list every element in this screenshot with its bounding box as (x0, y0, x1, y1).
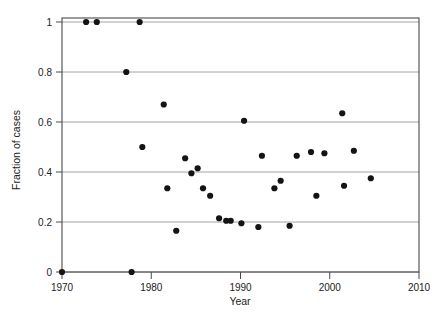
x-axis-title: Year (229, 295, 251, 307)
y-tick-label-0.6: 0.6 (38, 117, 52, 128)
data-point (123, 69, 129, 75)
y-tick-label-1: 1 (46, 17, 52, 28)
data-point (321, 150, 327, 156)
data-point (259, 153, 265, 159)
data-point (339, 110, 345, 116)
data-point (59, 269, 65, 275)
data-point (294, 153, 300, 159)
data-point (139, 144, 145, 150)
data-point (94, 19, 100, 25)
data-point (173, 228, 179, 234)
y-axis-tick-labels: 00.20.40.60.81 (38, 17, 52, 278)
y-axis-ticks (56, 22, 62, 272)
x-axis-tick-labels: 19701980199020002010 (51, 282, 431, 293)
y-tick-label-0.4: 0.4 (38, 167, 52, 178)
data-point (341, 183, 347, 189)
data-point (182, 155, 188, 161)
data-point (308, 149, 314, 155)
y-tick-label-0.2: 0.2 (38, 217, 52, 228)
data-point (271, 185, 277, 191)
data-point (207, 193, 213, 199)
x-tick-label-1980: 1980 (140, 282, 163, 293)
data-point (286, 223, 292, 229)
data-point (368, 175, 374, 181)
data-points (59, 19, 374, 275)
data-point (129, 269, 135, 275)
y-axis-title: Fraction of cases (10, 110, 22, 190)
data-point (195, 165, 201, 171)
x-tick-label-2000: 2000 (319, 282, 342, 293)
x-axis-ticks (62, 272, 419, 279)
data-point (278, 178, 284, 184)
data-point (313, 193, 319, 199)
data-point (200, 185, 206, 191)
y-tick-label-0.8: 0.8 (38, 67, 52, 78)
x-tick-label-2010: 2010 (408, 282, 431, 293)
data-point (228, 218, 234, 224)
x-tick-label-1990: 1990 (229, 282, 252, 293)
data-point (164, 185, 170, 191)
data-point (241, 118, 247, 124)
plot-gridlines (62, 22, 419, 272)
data-point (351, 148, 357, 154)
data-point (83, 19, 89, 25)
data-point (238, 220, 244, 226)
data-point (161, 101, 167, 107)
data-point (137, 19, 143, 25)
y-tick-label-0: 0 (46, 267, 52, 278)
x-tick-label-1970: 1970 (51, 282, 74, 293)
scatter-chart: 00.20.40.60.81 19701980199020002010 Year… (0, 0, 441, 320)
data-point (188, 170, 194, 176)
plot-frame (62, 18, 419, 272)
data-point (255, 224, 261, 230)
data-point (216, 215, 222, 221)
